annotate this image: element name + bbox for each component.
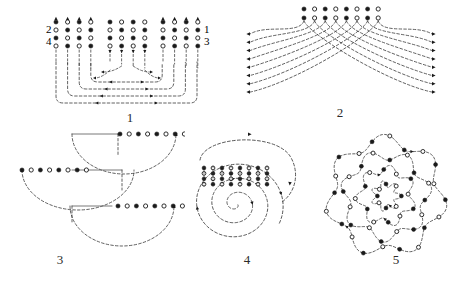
figure-2-graphic [228, 0, 455, 120]
figure-1-label-bottom-right: 3 [204, 35, 210, 47]
figure-1-label-top-right: 1 [204, 23, 210, 35]
figure-3-graphic [0, 126, 185, 261]
figure-3-number: 3 [48, 252, 72, 268]
figure-4-spiral [196, 132, 296, 236]
figure-1-panel: 2 4 1 3 [0, 0, 230, 120]
figure-5-loops [326, 134, 447, 253]
figure-3-lines [72, 134, 122, 222]
figure-1-number: 1 [118, 110, 142, 126]
figure-1-arrows [54, 17, 199, 68]
figure-4-number: 4 [235, 252, 259, 268]
figure-4-graphic [178, 126, 323, 261]
figure-3-panel [0, 126, 185, 261]
figure-4-nodes [202, 166, 269, 186]
figure-4-panel [178, 126, 323, 261]
figure-5-panel [322, 126, 455, 261]
figure-5-graphic [322, 126, 455, 261]
figure-1-label-top-left: 2 [46, 23, 52, 35]
figure-3-arcs [20, 133, 177, 246]
figure-2-arcs [246, 21, 435, 94]
figure-1-nodes [54, 20, 200, 48]
figure-sheet: 2 4 1 3 1 2 3 4 5 [0, 0, 455, 289]
figure-5-number: 5 [384, 252, 408, 268]
figure-2-nodes [302, 7, 380, 20]
figure-1-graphic: 2 4 1 3 [0, 0, 230, 120]
figure-1-loops [56, 62, 197, 105]
figure-2-number: 2 [328, 105, 352, 121]
figure-2-panel [228, 0, 455, 120]
figure-5-nodes [324, 134, 447, 255]
figure-1-label-bottom-left: 4 [46, 35, 52, 47]
